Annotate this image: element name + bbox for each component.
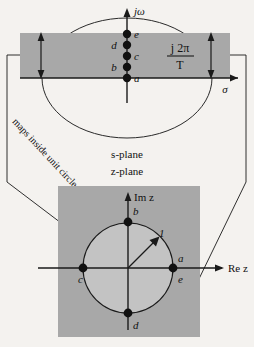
strip-annotation-numerator: j 2π	[170, 41, 189, 55]
z-plane-point-c-dot	[79, 264, 88, 273]
z-plane-point-c-label: c	[78, 273, 83, 285]
s-plane-caption: s-plane	[111, 148, 143, 160]
re-z-axis-arrowhead	[215, 265, 224, 272]
z-plane-point-a-label: a	[178, 252, 184, 264]
sigma-axis-arrowhead	[230, 75, 238, 82]
jomega-axis-label: jω	[132, 5, 145, 17]
s-plane-point-c-dot	[123, 52, 131, 60]
s-plane-point-a-dot	[123, 74, 131, 82]
re-z-axis-label: Re z	[228, 262, 248, 274]
z-plane-caption: z-plane	[111, 165, 143, 177]
s-plane-point-b-dot	[123, 63, 131, 71]
s-plane-point-d-dot	[123, 41, 131, 49]
z-plane-point-b-label: b	[133, 205, 139, 217]
z-plane-point-d-label: d	[133, 319, 139, 331]
s-plane-point-e-dot	[123, 30, 131, 38]
strip-annotation-denominator: T	[176, 58, 184, 72]
s-plane-point-a-label: a	[134, 72, 140, 84]
im-z-axis-label: Im z	[134, 191, 154, 203]
z-plane-point-b-dot	[124, 218, 133, 227]
z-plane-point-e-label: e	[178, 273, 183, 285]
figure-canvas: σ jω j 2π T a b c d e s-	[0, 0, 254, 347]
maps-inside-unit-circle-label: maps inside unit circle	[11, 116, 81, 190]
unit-radius-label: 1	[159, 227, 165, 239]
jomega-axis-arrowhead	[124, 8, 131, 17]
s-plane-point-d-label: d	[111, 39, 117, 51]
s-plane-point-e-label: e	[134, 28, 139, 40]
z-plane-point-ae-dot	[169, 264, 178, 273]
s-plane-to-z-plane-mapping-diagram: σ jω j 2π T a b c d e s-	[0, 0, 254, 347]
z-plane-point-d-dot	[124, 309, 133, 318]
s-plane-point-c-label: c	[134, 50, 139, 62]
s-plane-point-b-label: b	[111, 61, 117, 73]
sigma-axis-label: σ	[222, 83, 228, 95]
